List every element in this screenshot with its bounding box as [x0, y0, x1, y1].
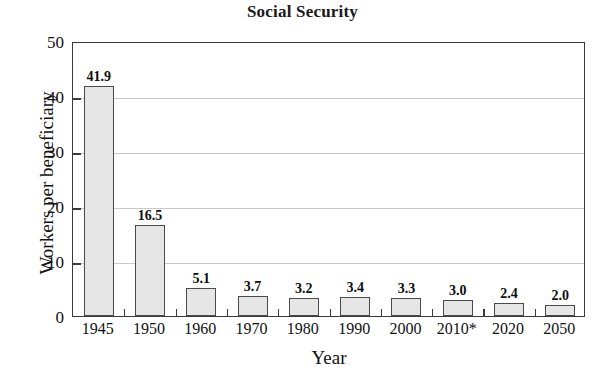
bar — [186, 288, 216, 316]
y-axis-tick — [73, 208, 81, 210]
bar — [289, 298, 319, 316]
gridline — [73, 98, 584, 99]
bar — [238, 296, 268, 316]
bar — [391, 298, 421, 316]
x-axis-tick — [330, 309, 331, 316]
chart-title: Social Security — [0, 2, 605, 22]
bar — [494, 303, 524, 316]
x-axis-tick — [381, 309, 382, 316]
bar-value-label: 2.0 — [530, 289, 590, 303]
x-axis-tick-label: 2050 — [529, 320, 589, 338]
bar — [135, 225, 165, 316]
y-axis-title: Workers per beneficiary — [36, 38, 58, 328]
x-axis-tick — [535, 309, 536, 316]
y-axis-tick — [73, 98, 81, 100]
y-axis-tick — [73, 153, 81, 155]
y-axis-tick-label: 50 — [24, 34, 64, 51]
y-axis-tick-label: 30 — [24, 144, 64, 161]
bar — [545, 305, 575, 316]
y-axis-tick-label: 20 — [24, 199, 64, 216]
bar — [84, 86, 114, 316]
x-axis-tick — [227, 309, 228, 316]
bar-value-label: 16.5 — [120, 209, 180, 223]
y-axis-tick-label: 10 — [24, 254, 64, 271]
x-axis-tick — [278, 309, 279, 316]
plot-area: 41.916.55.13.73.23.43.33.02.42.0 — [72, 42, 585, 317]
x-axis-title: Year — [72, 347, 586, 369]
y-axis-tick-label: 40 — [24, 89, 64, 106]
y-axis-tick — [73, 263, 81, 265]
x-axis-tick — [124, 309, 125, 316]
y-axis-tick-label: 0 — [24, 309, 64, 326]
chart-page: Social Security Workers per beneficiary … — [0, 0, 605, 377]
bar — [443, 300, 473, 317]
x-axis-tick — [483, 309, 484, 316]
bar — [340, 297, 370, 316]
gridline — [73, 153, 584, 154]
bar-value-label: 41.9 — [69, 70, 129, 84]
x-axis-tick — [176, 309, 177, 316]
x-axis-tick — [432, 309, 433, 316]
